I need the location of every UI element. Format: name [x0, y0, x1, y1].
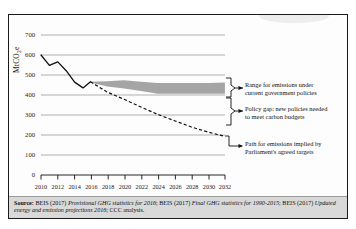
policy-gap-annotation-line1: Policy gap: new policies needed [245, 105, 348, 113]
range-annotation-line1: Range for emissions under [245, 81, 348, 89]
range-annotation-line2: current government policies [245, 89, 348, 97]
y-tick-label-100: 100 [15, 151, 35, 158]
x-tick-label-2020: 2020 [116, 183, 134, 190]
y-tick-label-0: 0 [15, 171, 35, 178]
x-tick-label-2010: 2010 [32, 183, 50, 190]
range-annotation: Range for emissions under current govern… [245, 81, 348, 96]
x-tick-label-2022: 2022 [133, 183, 151, 190]
chart-svg [9, 15, 348, 190]
target-path-annotation-line1: Path for emissions implied by [245, 140, 348, 148]
source-text-1: BEIS (2017) [34, 200, 68, 206]
x-tick-label-2012: 2012 [49, 183, 67, 190]
x-tick-label-2018: 2018 [99, 183, 117, 190]
policy-gap-annotation: Policy gap: new policies needed to meet … [245, 105, 348, 120]
y-tick-label-200: 200 [15, 131, 35, 138]
source-label: Source: [14, 200, 34, 206]
brace-gap [226, 98, 235, 125]
x-tick-label-2014: 2014 [66, 183, 84, 190]
policy-gap-annotation-line2: to meet carbon budgets [245, 113, 348, 121]
emissions-range-band [91, 80, 225, 94]
y-tick-label-700: 700 [15, 31, 35, 38]
chart-plot-area: MtCO2e [9, 15, 348, 190]
gridlines [41, 35, 225, 155]
target-path-annotation-line2: Parliament's agreed targets [245, 148, 348, 156]
x-tick-label-2024: 2024 [150, 183, 168, 190]
y-tick-label-500: 500 [15, 71, 35, 78]
source-text-2: ; BEIS (2017) [156, 200, 192, 206]
x-tick-label-2032: 2032 [216, 183, 234, 190]
y-tick-label-600: 600 [15, 51, 35, 58]
y-tick-label-300: 300 [15, 111, 35, 118]
y-tick-label-400: 400 [15, 91, 35, 98]
source-italic-1: Provisional GHG statistics for 2016 [68, 200, 156, 206]
arrowhead-range [239, 86, 244, 90]
arrowhead-target [239, 144, 244, 148]
figure-panel: MtCO2e [8, 14, 348, 219]
source-note: Source: BEIS (2017) Provisional GHG stat… [9, 196, 347, 218]
arrowhead-gap [239, 109, 244, 113]
source-text-4: ; CCC analysis. [106, 207, 144, 213]
x-tick-label-2026: 2026 [166, 183, 184, 190]
brace-range [226, 78, 235, 97]
target-path-annotation: Path for emissions implied by Parliament… [245, 140, 348, 155]
x-axis [41, 175, 225, 180]
historic-emissions-line [41, 55, 91, 88]
source-text-3: ; BEIS (2017) [279, 200, 315, 206]
x-tick-label-2016: 2016 [82, 183, 100, 190]
x-tick-label-2028: 2028 [183, 183, 201, 190]
annotation-leaders [225, 78, 243, 148]
source-italic-2: Final GHG statistics for 1990-2015 [192, 200, 279, 206]
